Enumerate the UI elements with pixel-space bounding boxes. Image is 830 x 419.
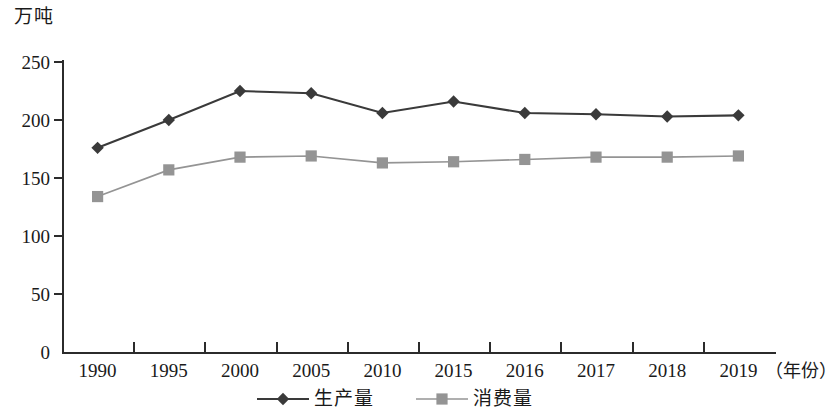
series-line bbox=[98, 156, 739, 197]
data-point-square-marker bbox=[448, 156, 459, 167]
data-point-square-marker bbox=[590, 152, 601, 163]
data-point-diamond-marker bbox=[163, 114, 175, 126]
data-point-square-marker bbox=[234, 152, 245, 163]
legend-diamond-icon bbox=[257, 390, 309, 408]
data-point-square-marker bbox=[519, 154, 530, 165]
legend-item[interactable]: 消费量 bbox=[416, 388, 533, 410]
data-point-square-marker bbox=[733, 150, 744, 161]
legend-label: 消费量 bbox=[473, 388, 533, 410]
series-consumption bbox=[92, 150, 744, 202]
data-point-diamond-marker bbox=[305, 87, 317, 99]
data-point-diamond-marker bbox=[447, 95, 459, 107]
series-production bbox=[91, 85, 744, 154]
data-point-square-marker bbox=[662, 152, 673, 163]
data-point-diamond-marker bbox=[376, 107, 388, 119]
legend-square-icon bbox=[416, 390, 468, 408]
legend-item[interactable]: 生产量 bbox=[257, 388, 374, 410]
legend-label: 生产量 bbox=[314, 388, 374, 410]
data-point-diamond-marker bbox=[732, 109, 744, 121]
data-point-diamond-marker bbox=[234, 85, 246, 97]
chart-legend: 生产量消费量 bbox=[0, 388, 790, 410]
data-point-square-marker bbox=[377, 157, 388, 168]
data-point-square-marker bbox=[306, 150, 317, 161]
data-point-diamond-marker bbox=[661, 110, 673, 122]
data-point-diamond-marker bbox=[590, 108, 602, 120]
data-point-square-marker bbox=[92, 191, 103, 202]
data-point-diamond-marker bbox=[91, 142, 103, 154]
data-point-diamond-marker bbox=[519, 107, 531, 119]
series-line bbox=[98, 91, 739, 148]
data-point-square-marker bbox=[163, 164, 174, 175]
